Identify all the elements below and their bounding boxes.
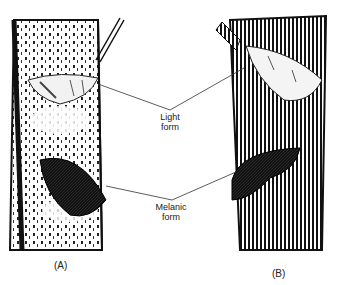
- light-form-label: Light form: [150, 112, 190, 132]
- tree-trunk-a: [10, 18, 124, 250]
- peppered-moth-illustration: [0, 0, 338, 285]
- melanic-form-label: Melanic form: [148, 202, 194, 222]
- panel-label-a: (A): [54, 260, 67, 271]
- panel-label-b: (B): [272, 268, 285, 279]
- leader-lines: [98, 68, 244, 200]
